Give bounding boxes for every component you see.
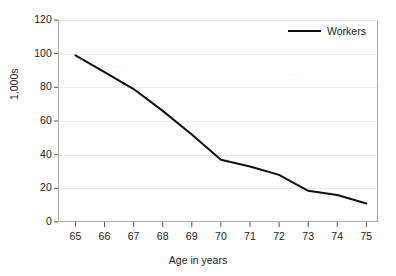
series-line-workers: [75, 55, 366, 203]
x-axis-tick-label: 66: [90, 230, 120, 242]
y-axis-tick-label: 80: [18, 80, 52, 92]
y-axis-tick-label: 0: [18, 215, 52, 227]
line-chart: 020406080100120 6566676869707172737475 1…: [0, 0, 396, 276]
y-axis-title: 1,000s: [8, 86, 20, 100]
x-axis-tick-label: 67: [119, 230, 149, 242]
x-axis-tick-label: 68: [148, 230, 178, 242]
y-axis-tick-label: 120: [18, 13, 52, 25]
y-axis-tick-label: 40: [18, 148, 52, 160]
x-axis-tick-label: 73: [293, 230, 323, 242]
x-axis-tick-label: 71: [235, 230, 265, 242]
x-axis-title: Age in years: [0, 254, 396, 266]
x-axis-tick-label: 72: [264, 230, 294, 242]
x-axis-tick-label: 70: [206, 230, 236, 242]
x-axis-tick-label: 75: [351, 230, 381, 242]
y-axis-tick-label: 20: [18, 181, 52, 193]
legend-line-swatch-workers: [288, 30, 321, 32]
y-axis-tick-label: 60: [18, 114, 52, 126]
x-axis-tick-label: 69: [177, 230, 207, 242]
legend-label-workers: Workers: [327, 25, 366, 37]
x-axis-tick-label: 65: [60, 230, 90, 242]
y-axis-tick-label: 100: [18, 47, 52, 59]
x-axis-tick-label: 74: [322, 230, 352, 242]
legend: Workers: [288, 25, 366, 37]
